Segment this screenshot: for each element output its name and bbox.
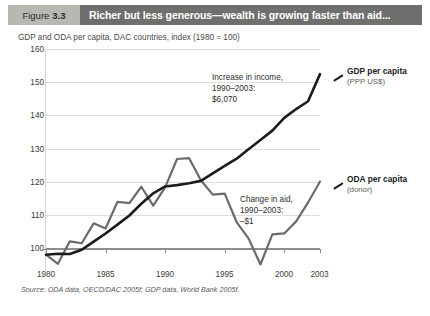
chart-subtitle: GDP and ODA per capita, DAC countries, i… [18, 33, 240, 42]
figure-number-badge: Figure 3.3 [8, 5, 80, 25]
figure-number-label: 3.3 [52, 10, 65, 21]
annotation-income-line2: 1990–2003: [212, 83, 283, 94]
legend-gdp-name: GDP per capita [347, 66, 407, 76]
figure-header-band: Figure 3.3 Richer but less generous—weal… [8, 5, 422, 25]
source-note: Source: ODA data, OECD/DAC 2005f; GDP da… [21, 285, 239, 294]
figure-title: Richer but less generous—wealth is growi… [80, 5, 422, 25]
annotation-increase-in-income: Increase in income, 1990–2003: $6,070 [212, 72, 283, 105]
annotation-change-in-aid: Change in aid, 1990–2003: –$1 [240, 194, 293, 227]
figure-word-label: Figure [22, 10, 49, 21]
annotation-aid-line3: –$1 [240, 216, 293, 227]
x-tick-label-1990: 1990 [156, 270, 174, 279]
gdp-leader-line-icon [333, 74, 344, 82]
y-tick-label-140: 140 [18, 111, 44, 120]
x-tick-label-1985: 1985 [96, 270, 114, 279]
x-tick-label-1995: 1995 [215, 270, 233, 279]
source-label: Source: [21, 285, 46, 294]
figure-container: Figure 3.3 Richer but less generous—weal… [0, 0, 430, 316]
annotation-aid-line2: 1990–2003: [240, 205, 293, 216]
legend-gdp-sub: (PPP US$) [347, 77, 407, 86]
legend-gdp-per-capita: GDP per capita (PPP US$) [347, 66, 407, 86]
legend-oda-sub: (donor) [347, 185, 407, 194]
y-tick-label-130: 130 [18, 145, 44, 154]
legend-oda-name: ODA per capita [347, 174, 407, 184]
annotation-income-line3: $6,070 [212, 94, 283, 105]
y-tick-label-120: 120 [18, 178, 44, 187]
source-text: ODA data, OECD/DAC 2005f; GDP data, Worl… [46, 285, 240, 294]
annotation-aid-line1: Change in aid, [240, 194, 293, 205]
y-tick-label-150: 150 [18, 78, 44, 87]
x-tick-label-2003: 2003 [310, 270, 328, 279]
oda-leader-line-icon [333, 182, 344, 190]
annotation-income-line1: Increase in income, [212, 72, 283, 83]
y-tick-label-110: 110 [18, 211, 44, 220]
x-tick-label-1980: 1980 [37, 270, 55, 279]
legend-oda-per-capita: ODA per capita (donor) [347, 174, 407, 194]
y-tick-label-160: 160 [18, 45, 44, 54]
x-tick-label-2000: 2000 [275, 270, 293, 279]
y-tick-label-100: 100 [18, 244, 44, 253]
